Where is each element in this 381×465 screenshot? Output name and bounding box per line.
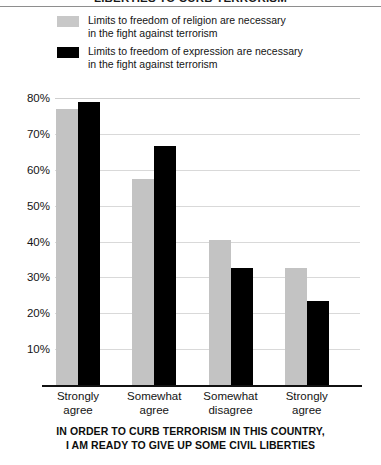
x-axis-title: IN ORDER TO CURB TERRORISM IN THIS COUNT… <box>0 424 381 452</box>
x-axis-group-label-2: Somewhatagree <box>114 390 194 417</box>
bar-expression-group-3 <box>231 268 253 385</box>
x-axis-group-label-3: Somewhatdisagree <box>191 390 271 417</box>
bar-religion-group-2 <box>132 179 154 385</box>
x-axis-group-label-4: Stronglyagree <box>267 390 347 417</box>
gridline <box>55 242 360 243</box>
x-axis-title-line2: I AM READY TO GIVE UP SOME CIVIL LIBERTI… <box>66 439 315 451</box>
x-axis-group-label-line2: disagree <box>191 404 271 418</box>
bar-expression-group-1 <box>78 102 100 385</box>
gridline <box>55 170 360 171</box>
x-axis-group-label-line1: Somewhat <box>114 390 194 404</box>
gridline <box>55 277 360 278</box>
x-axis-labels: StronglyagreeSomewhatagreeSomewhatdisagr… <box>55 390 360 420</box>
x-axis-group-label-line2: agree <box>38 404 118 418</box>
gridline <box>55 206 360 207</box>
x-axis-group-label-line1: Somewhat <box>191 390 271 404</box>
plot-area <box>55 98 360 385</box>
bar-religion-group-4 <box>285 268 307 385</box>
x-axis-group-label-line1: Strongly <box>267 390 347 404</box>
bar-religion-group-3 <box>209 240 231 385</box>
x-axis-group-label-line2: agree <box>267 404 347 418</box>
chart-plot: StronglyagreeSomewhatagreeSomewhatdisagr… <box>0 0 381 465</box>
bar-expression-group-4 <box>307 301 329 385</box>
x-axis-group-label-1: Stronglyagree <box>38 390 118 417</box>
x-axis-group-label-line2: agree <box>114 404 194 418</box>
x-axis-title-line1: IN ORDER TO CURB TERRORISM IN THIS COUNT… <box>56 425 325 437</box>
bar-religion-group-1 <box>56 109 78 385</box>
bar-expression-group-2 <box>154 146 176 385</box>
x-axis-line <box>42 385 362 387</box>
gridline <box>55 98 360 99</box>
gridline <box>55 134 360 135</box>
x-axis-group-label-line1: Strongly <box>38 390 118 404</box>
